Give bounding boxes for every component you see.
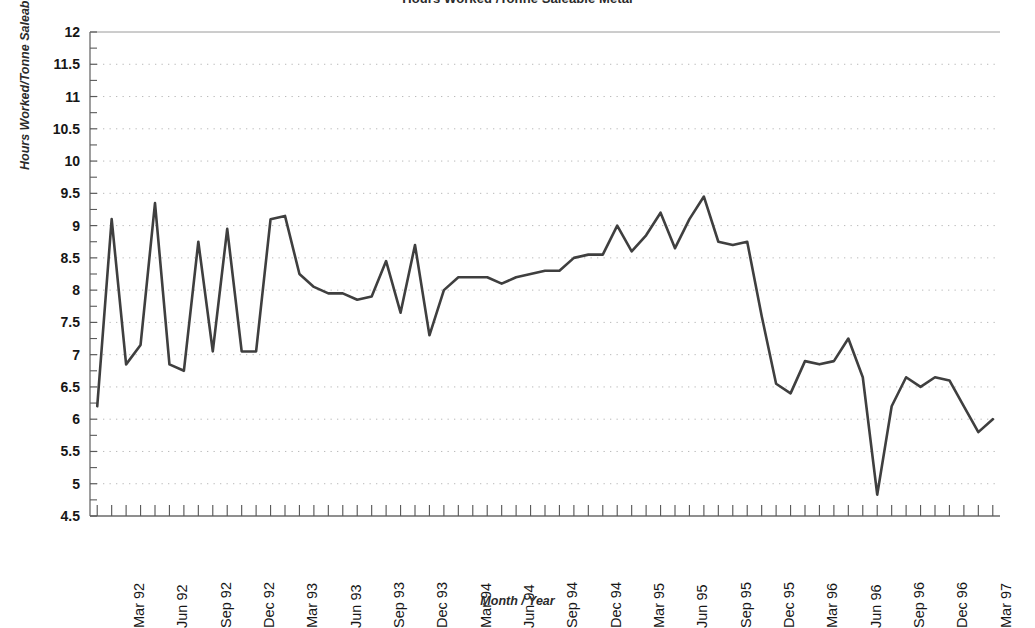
x-axis-title: Month / Year bbox=[0, 594, 1035, 608]
